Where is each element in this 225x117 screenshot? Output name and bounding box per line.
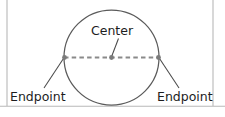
endpoint-right-leader-line: [160, 59, 180, 89]
center-leader-line: [112, 39, 119, 57]
left-endpoint-point: [62, 55, 67, 60]
right-endpoint-point: [156, 55, 161, 60]
center-point: [109, 55, 114, 60]
endpoint-left-label: Endpoint: [10, 89, 66, 104]
circle-diagram-figure: Center Endpoint Endpoint: [0, 0, 225, 117]
endpoint-left-leader-line: [44, 59, 64, 89]
center-label: Center: [91, 23, 134, 38]
diagram-canvas: Center Endpoint Endpoint: [0, 0, 225, 117]
endpoint-right-label: Endpoint: [157, 89, 213, 104]
